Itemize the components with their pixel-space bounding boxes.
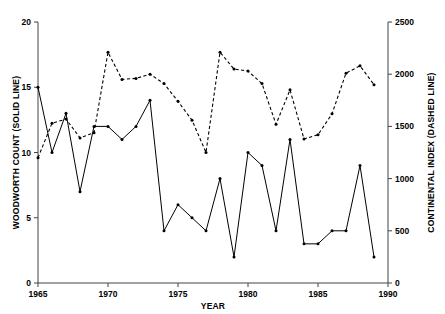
right-tick-label: 1000 (395, 174, 414, 184)
data-point-marker (65, 112, 68, 115)
data-point-marker (37, 156, 40, 159)
dashed-series-line (38, 52, 374, 157)
data-point-marker (107, 125, 110, 128)
data-point-marker (79, 136, 82, 139)
data-point-marker (79, 190, 82, 193)
data-point-marker (65, 118, 68, 121)
data-point-marker (275, 229, 278, 232)
data-point-marker (121, 78, 124, 81)
data-point-marker (233, 255, 236, 258)
right-tick-label: 2500 (395, 17, 414, 27)
left-tick-label: 20 (22, 17, 32, 27)
data-point-marker (345, 72, 348, 75)
data-point-marker (303, 242, 306, 245)
data-point-marker (177, 203, 180, 206)
right-tick-label: 2000 (395, 69, 414, 79)
data-point-marker (93, 131, 96, 134)
data-point-marker (289, 138, 292, 141)
data-point-marker (317, 242, 320, 245)
chart-container: 05101520 05001000150020002500 1965197019… (0, 0, 445, 314)
data-point-marker (303, 137, 306, 140)
data-point-marker (331, 229, 334, 232)
right-axis-ticks: 05001000150020002500 (388, 17, 414, 288)
x-tick-label: 1990 (379, 289, 398, 299)
x-tick-label: 1975 (169, 289, 188, 299)
data-point-marker (163, 82, 166, 85)
data-point-marker (191, 216, 194, 219)
data-point-marker (373, 83, 376, 86)
data-point-marker (261, 82, 264, 85)
data-point-marker (275, 123, 278, 126)
data-point-marker (373, 255, 376, 258)
data-point-marker (289, 88, 292, 91)
data-point-marker (121, 138, 124, 141)
data-point-marker (359, 64, 362, 67)
left-tick-label: 15 (22, 82, 32, 92)
x-tick-label: 1980 (239, 289, 258, 299)
data-point-marker (247, 151, 250, 154)
data-point-marker (163, 229, 166, 232)
x-axis-title: YEAR (201, 301, 225, 311)
data-point-marker (37, 86, 40, 89)
left-tick-label: 10 (22, 148, 32, 158)
left-axis-ticks: 05101520 (22, 17, 38, 288)
data-point-marker (149, 99, 152, 102)
right-axis-title: CONTINENTAL INDEX (DASHED LINE) (426, 72, 436, 232)
data-point-marker (345, 229, 348, 232)
data-point-marker (317, 133, 320, 136)
plot-frame (38, 22, 388, 283)
x-tick-label: 1970 (99, 289, 118, 299)
data-point-marker (135, 77, 138, 80)
left-tick-label: 0 (26, 278, 31, 288)
left-axis-title: WOODWORTH COUNT (SOLID LINE) (11, 76, 21, 229)
data-point-marker (51, 151, 54, 154)
data-point-marker (219, 51, 222, 54)
data-point-marker (219, 177, 222, 180)
dual-axis-line-chart: 05101520 05001000150020002500 1965197019… (0, 0, 445, 314)
right-tick-label: 0 (395, 278, 400, 288)
data-point-marker (205, 229, 208, 232)
data-point-marker (135, 125, 138, 128)
data-point-marker (51, 122, 54, 125)
right-tick-label: 1500 (395, 121, 414, 131)
data-point-marker (205, 151, 208, 154)
data-point-marker (359, 164, 362, 167)
x-tick-label: 1985 (309, 289, 328, 299)
x-tick-label: 1965 (29, 289, 48, 299)
x-axis-ticks: 196519701975198019851990 (29, 283, 398, 299)
data-point-marker (233, 67, 236, 70)
data-point-marker (331, 112, 334, 115)
right-tick-label: 500 (395, 226, 409, 236)
left-tick-label: 5 (26, 213, 31, 223)
data-point-marker (107, 51, 110, 54)
data-point-marker (191, 119, 194, 122)
series-layer (37, 51, 376, 259)
data-point-marker (149, 73, 152, 76)
data-point-marker (261, 164, 264, 167)
data-point-marker (247, 70, 250, 73)
data-point-marker (177, 100, 180, 103)
